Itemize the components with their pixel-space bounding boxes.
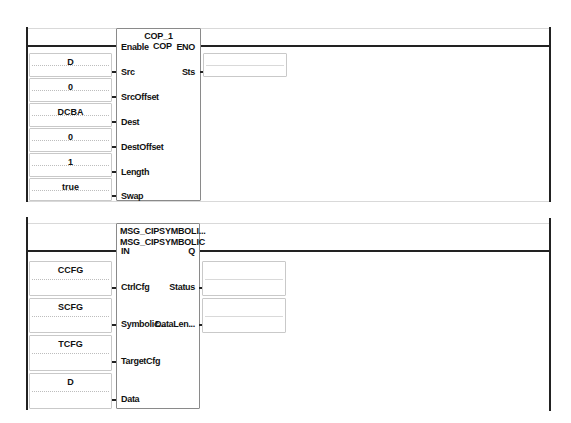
operand-symbolic[interactable]: SCFG: [29, 298, 112, 333]
right-power-rail: [549, 218, 551, 411]
pin-destoffset: DestOffset: [121, 142, 164, 152]
left-power-rail: [26, 27, 28, 202]
instruction-tag: COP_1: [117, 31, 200, 41]
pin-connector: [112, 71, 116, 73]
pin-connector: [112, 324, 116, 326]
instruction-type: MSG_CIPSYMBOLIC: [120, 237, 199, 247]
output-datalen[interactable]: [202, 298, 286, 333]
pin-dest: Dest: [121, 117, 139, 127]
pin-status: Status: [169, 282, 195, 292]
rung-bottom-border: [28, 201, 549, 202]
operand-value: SCFG: [30, 302, 111, 312]
pin-sts: Sts: [182, 67, 195, 77]
pin-connector: [112, 146, 116, 148]
pin-srcoffset: SrcOffset: [121, 92, 159, 102]
operand-src[interactable]: D: [29, 53, 112, 77]
pin-src: Src: [121, 67, 135, 77]
operand-length[interactable]: 1: [29, 153, 112, 177]
instruction-type: COP: [153, 41, 172, 51]
rung-power-line-left: [28, 250, 116, 252]
pin-connector: [112, 195, 116, 197]
pin-targetcfg: TargetCfg: [121, 356, 160, 366]
pin-ctrlcfg: CtrlCfg: [121, 282, 149, 292]
pin-connector: [112, 96, 116, 98]
operand-destoffset[interactable]: 0: [29, 128, 112, 152]
pin-length: Length: [121, 167, 149, 177]
operand-data[interactable]: D: [29, 373, 112, 409]
operand-value: TCFG: [30, 339, 111, 349]
operand-value: D: [30, 377, 111, 387]
q-pin: Q: [188, 246, 195, 256]
left-power-rail: [26, 217, 28, 410]
rung-power-line-left: [28, 45, 116, 47]
operand-swap[interactable]: true: [29, 178, 112, 201]
cop-instruction-block[interactable]: COP_1 Enable COP ENO Src SrcOffset Dest …: [116, 28, 201, 201]
operand-ctrlcfg[interactable]: CCFG: [29, 261, 112, 296]
msg-cipsymbolic-instruction-block[interactable]: MSG_CIPSYMBOLI... MSG_CIPSYMBOLIC IN Q C…: [116, 223, 200, 409]
eno-pin: ENO: [176, 42, 195, 52]
pin-connector: [112, 399, 116, 401]
pin-connector: [112, 361, 116, 363]
operand-value: CCFG: [30, 265, 111, 275]
rung-top-border: [28, 28, 549, 29]
output-status[interactable]: [202, 261, 286, 296]
operand-dest[interactable]: DCBA: [29, 103, 112, 127]
pin-connector: [112, 171, 116, 173]
pin-datalen: DataLen...: [155, 319, 195, 329]
rung-top-border: [28, 223, 549, 224]
pin-connector: [112, 287, 116, 289]
right-power-rail: [549, 27, 551, 202]
pin-swap: Swap: [121, 191, 143, 201]
pin-data: Data: [121, 394, 139, 404]
pin-connector: [112, 121, 116, 123]
in-pin: IN: [121, 246, 129, 256]
rung-power-line-right: [200, 45, 549, 47]
output-sts[interactable]: [203, 53, 287, 77]
rung-power-line-right: [200, 250, 549, 252]
enable-pin: Enable: [121, 42, 149, 52]
operand-srcoffset[interactable]: 0: [29, 78, 112, 102]
operand-targetcfg[interactable]: TCFG: [29, 335, 112, 371]
instruction-tag: MSG_CIPSYMBOLI...: [120, 226, 199, 236]
